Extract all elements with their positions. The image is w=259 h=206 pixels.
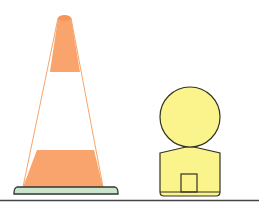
cone-base	[14, 187, 118, 194]
scene-canvas	[0, 0, 259, 206]
yellow-figure-icon	[160, 87, 220, 196]
figure-door	[181, 174, 197, 192]
traffic-cone-icon	[14, 15, 118, 194]
illustration-scene: Traffic cone and yellow figure	[0, 0, 259, 206]
